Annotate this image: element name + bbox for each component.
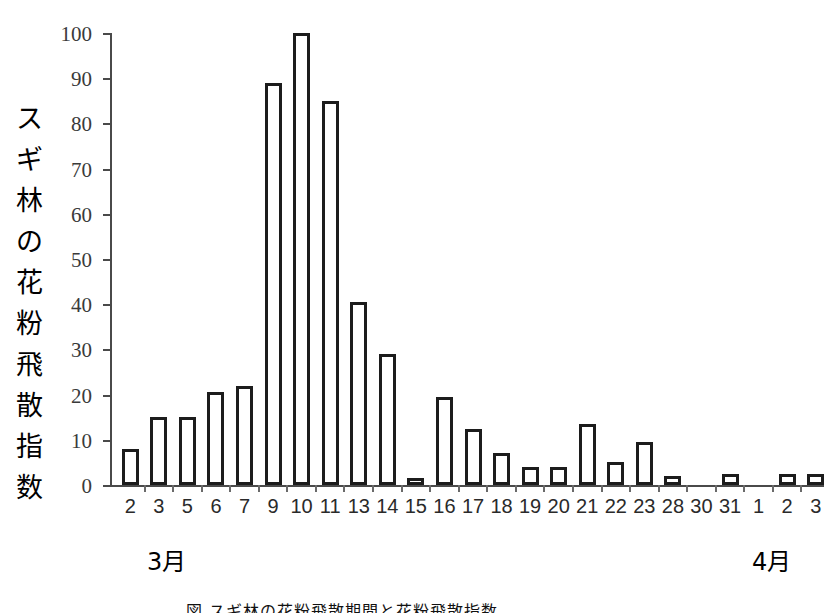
x-axis-tick-label: 9 bbox=[268, 495, 279, 518]
y-axis-tick: 60 bbox=[103, 214, 111, 216]
x-axis-tick bbox=[629, 485, 631, 492]
y-axis-tick: 70 bbox=[103, 169, 111, 171]
x-axis-tick bbox=[144, 485, 146, 492]
x-axis-tick bbox=[286, 485, 288, 492]
x-axis-tick-label: 10 bbox=[291, 495, 313, 518]
month-label-april: 4月 bbox=[752, 542, 791, 577]
bar bbox=[322, 101, 339, 485]
x-axis-tick bbox=[800, 485, 802, 492]
bar bbox=[807, 474, 824, 485]
x-axis-tick bbox=[601, 485, 603, 492]
y-axis-tick-label: 100 bbox=[61, 22, 93, 47]
bar bbox=[465, 429, 482, 486]
y-axis-tick-label: 30 bbox=[71, 338, 92, 363]
y-axis-tick-label: 60 bbox=[71, 202, 92, 227]
bar bbox=[779, 474, 796, 485]
x-axis-tick-label: 13 bbox=[348, 495, 370, 518]
x-axis-tick-label: 18 bbox=[490, 495, 512, 518]
x-axis-tick-label: 14 bbox=[376, 495, 398, 518]
x-axis-tick-label: 7 bbox=[239, 495, 250, 518]
x-axis-tick bbox=[429, 485, 431, 492]
y-axis-tick: 40 bbox=[103, 304, 111, 306]
bar bbox=[522, 467, 539, 485]
x-axis-line bbox=[110, 485, 824, 487]
bar bbox=[379, 354, 396, 485]
bar bbox=[207, 392, 224, 485]
x-axis-tick-label: 31 bbox=[719, 495, 741, 518]
figure-caption: 図 スギ林の花粉飛散期間と花粉飛散指数 bbox=[186, 598, 498, 613]
x-axis-tick-label: 15 bbox=[405, 495, 427, 518]
y-axis-title-char: ギ bbox=[8, 139, 50, 180]
bar bbox=[293, 33, 310, 485]
y-axis-title-char: 林 bbox=[8, 180, 50, 221]
x-axis-tick-label: 2 bbox=[782, 495, 793, 518]
x-axis-tick-label: 22 bbox=[605, 495, 627, 518]
bar bbox=[579, 424, 596, 485]
x-axis-tick bbox=[686, 485, 688, 492]
y-axis-tick-label: 0 bbox=[82, 474, 93, 499]
y-axis-title-char: 散 bbox=[8, 385, 50, 426]
x-axis-tick-label: 19 bbox=[519, 495, 541, 518]
bar bbox=[664, 476, 681, 485]
bar bbox=[407, 478, 424, 485]
x-axis-tick-label: 1 bbox=[753, 495, 764, 518]
y-axis-tick-label: 20 bbox=[71, 383, 92, 408]
y-axis-tick-label: 70 bbox=[71, 157, 92, 182]
x-axis-tick-label: 23 bbox=[633, 495, 655, 518]
y-axis-title-char: 粉 bbox=[8, 303, 50, 344]
x-axis-tick bbox=[458, 485, 460, 492]
x-axis-tick bbox=[715, 485, 717, 492]
x-axis-tick bbox=[515, 485, 517, 492]
y-axis-title-char: ス bbox=[8, 98, 50, 139]
y-axis-title-char: 飛 bbox=[8, 344, 50, 385]
x-axis-tick bbox=[201, 485, 203, 492]
plot-area: 0102030405060708090100 23567910111314151… bbox=[110, 33, 825, 486]
y-axis-tick-label: 80 bbox=[71, 112, 92, 137]
x-axis-tick bbox=[658, 485, 660, 492]
x-axis-tick bbox=[486, 485, 488, 492]
bar bbox=[350, 302, 367, 485]
x-axis-tick bbox=[372, 485, 374, 492]
x-axis-tick bbox=[172, 485, 174, 492]
x-axis-tick-label: 28 bbox=[662, 495, 684, 518]
bar bbox=[550, 467, 567, 485]
x-axis-tick bbox=[258, 485, 260, 492]
y-axis-tick: 100 bbox=[103, 33, 111, 35]
x-axis-tick bbox=[743, 485, 745, 492]
y-axis-tick: 30 bbox=[103, 349, 111, 351]
y-axis-tick-label: 50 bbox=[71, 248, 92, 273]
y-axis-tick-label: 10 bbox=[71, 428, 92, 453]
y-axis-tick: 20 bbox=[103, 395, 111, 397]
bar bbox=[493, 453, 510, 485]
x-axis-tick-label: 11 bbox=[320, 495, 341, 518]
y-axis-tick: 10 bbox=[103, 440, 111, 442]
x-axis-tick bbox=[401, 485, 403, 492]
x-axis-tick-label: 5 bbox=[182, 495, 193, 518]
y-axis-tick: 50 bbox=[103, 259, 111, 261]
y-axis-title-char: の bbox=[8, 221, 50, 262]
bar bbox=[636, 442, 653, 485]
bar bbox=[607, 462, 624, 485]
x-axis-tick bbox=[229, 485, 231, 492]
pollen-dispersal-bar-chart: ス ギ 林 の 花 粉 飛 散 指 数 01020304050607080901… bbox=[0, 0, 829, 613]
y-axis-tick: 80 bbox=[103, 123, 111, 125]
y-axis-tick-label: 90 bbox=[71, 67, 92, 92]
bar bbox=[122, 449, 139, 485]
x-axis-tick bbox=[343, 485, 345, 492]
x-axis-tick-label: 3 bbox=[153, 495, 164, 518]
x-axis-tick-label: 3 bbox=[810, 495, 821, 518]
x-axis-tick bbox=[315, 485, 317, 492]
x-axis-tick-label: 16 bbox=[433, 495, 455, 518]
x-axis-tick bbox=[572, 485, 574, 492]
x-axis-tick-label: 6 bbox=[210, 495, 221, 518]
x-axis-tick-label: 2 bbox=[125, 495, 136, 518]
y-axis-title: ス ギ 林 の 花 粉 飛 散 指 数 bbox=[8, 98, 50, 498]
bar bbox=[179, 417, 196, 485]
x-axis-tick bbox=[772, 485, 774, 492]
y-axis-title-char: 指 bbox=[8, 426, 50, 467]
bar bbox=[265, 83, 282, 485]
bar bbox=[436, 397, 453, 485]
y-axis-tick-label: 40 bbox=[71, 293, 92, 318]
x-axis-tick-label: 20 bbox=[548, 495, 570, 518]
x-axis-tick-label: 30 bbox=[690, 495, 712, 518]
